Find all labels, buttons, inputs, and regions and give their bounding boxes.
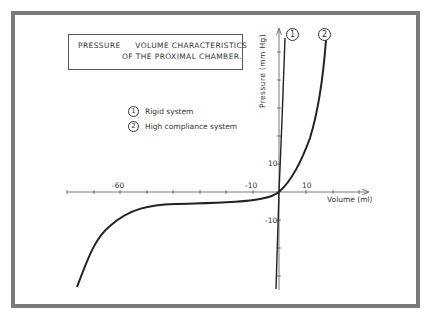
curve-marker-1: 1 xyxy=(286,28,299,41)
legend-item-rigid: 1Rigid system xyxy=(128,106,193,117)
y-tick-label-10: 10 xyxy=(268,159,278,168)
x-tick-label-neg60: -60 xyxy=(112,181,124,190)
legend-marker-1: 1 xyxy=(128,106,139,117)
legend-marker-2: 2 xyxy=(128,121,139,132)
legend-label: Rigid system xyxy=(145,107,193,116)
legend-item-high-compliance: 2High compliance system xyxy=(128,121,237,132)
x-axis-label: Volume (ml) xyxy=(327,195,373,204)
title-volume-characteristics: VOLUME CHARACTERISTICS xyxy=(135,41,247,50)
y-tick-label-neg10: -10 xyxy=(265,216,277,225)
y-axis-label: Pressure (mm Hg) xyxy=(258,34,267,108)
chart-title-line2: OF THE PROXIMAL CHAMBER. xyxy=(122,52,242,61)
curve-marker-2: 2 xyxy=(318,28,331,41)
curve-high-compliance-system xyxy=(77,40,326,287)
legend-label: High compliance system xyxy=(145,122,237,131)
title-pressure: PRESSURE xyxy=(78,41,121,50)
chart-title-line1: PRESSURE VOLUME CHARACTERISTICS xyxy=(78,41,247,50)
x-tick-label-10: 10 xyxy=(302,181,312,190)
x-tick-label-neg10: -10 xyxy=(245,181,257,190)
